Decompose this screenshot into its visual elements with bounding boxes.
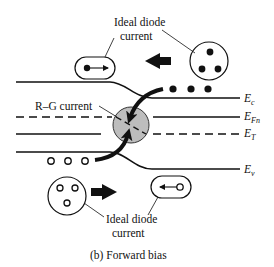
electron-dot	[169, 85, 176, 92]
ideal-diode-top-label-line2: current	[120, 30, 153, 42]
band-label-et: ET	[243, 127, 256, 142]
electron-icon	[84, 65, 90, 71]
electron-dot	[207, 49, 214, 56]
ideal-top-leader-right	[162, 30, 195, 53]
hole-dot	[64, 200, 70, 206]
thick-right-arrow-icon	[91, 184, 117, 200]
hole-dot	[57, 185, 63, 191]
rg-current-label: R–G current	[35, 100, 93, 112]
ideal-bottom-leader-left	[84, 203, 104, 217]
rg-current-leader-line	[99, 106, 117, 117]
band-label-ev: Ev	[243, 163, 255, 178]
forward-bias-band-diagram: R–G current Ideal diode current Ideal di…	[0, 0, 274, 267]
hole-icon	[177, 184, 183, 190]
ideal-diode-top-label-line1: Ideal diode	[114, 16, 165, 28]
ideal-diode-bottom-label-line2: current	[112, 227, 145, 239]
hole-dot	[72, 185, 78, 191]
electron-dot	[187, 85, 194, 92]
thick-left-arrow-icon	[145, 53, 171, 69]
hole-dot	[82, 158, 88, 164]
band-label-ec: Ec	[243, 92, 255, 107]
ideal-top-leader-left	[105, 38, 114, 57]
electron-dot	[204, 85, 211, 92]
figure-caption: (b) Forward bias	[90, 249, 167, 262]
electron-dot	[215, 66, 222, 73]
hole-cluster-circle	[48, 177, 86, 215]
hole-dot	[48, 158, 54, 164]
hole-dot	[65, 158, 71, 164]
electron-dot	[199, 66, 206, 73]
band-label-efn: EFn	[243, 110, 260, 125]
ideal-diode-bottom-label-line1: Ideal diode	[106, 213, 157, 225]
electron-cluster-circle	[190, 42, 228, 80]
